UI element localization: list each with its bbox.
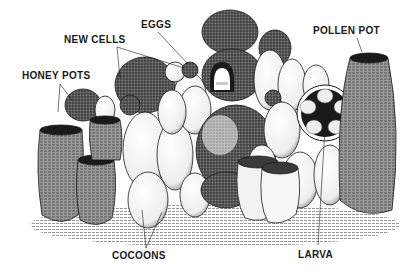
label-cocoons: COCOONS <box>112 250 166 261</box>
nest-illustration: EGGS NEW CELLS HONEY POTS POLLEN POT COC… <box>0 0 420 276</box>
honey-pots <box>38 116 122 225</box>
pollen-pot <box>339 53 396 213</box>
open-cells-front <box>237 156 300 223</box>
label-eggs: EGGS <box>141 19 171 30</box>
open-egg-cell <box>210 62 234 92</box>
label-honey-pots: HONEY POTS <box>22 70 90 81</box>
label-larva: LARVA <box>298 249 333 260</box>
label-pollen-pot: POLLEN POT <box>313 25 380 36</box>
label-new-cells: NEW CELLS <box>64 34 126 45</box>
nest-drawing <box>0 0 420 276</box>
